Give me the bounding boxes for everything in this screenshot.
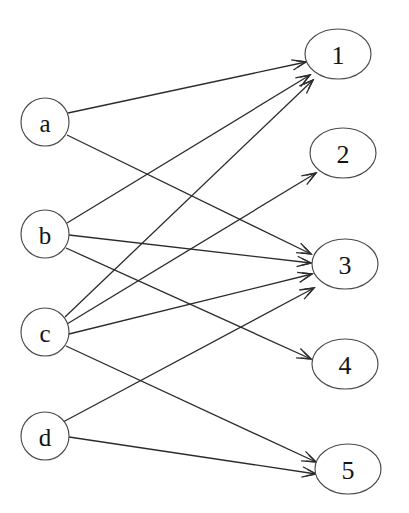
edge-d-to-5 [69, 437, 316, 477]
node-4[interactable]: 4 [312, 339, 378, 389]
node-4-label: 4 [339, 351, 352, 380]
node-d-label: d [39, 424, 52, 451]
bipartite-graph-svg: abcd12345 [0, 0, 409, 513]
node-a-label: a [39, 110, 50, 137]
node-3-label: 3 [339, 251, 352, 280]
node-c-label: c [39, 320, 50, 347]
node-b[interactable]: b [21, 210, 69, 258]
node-a[interactable]: a [21, 98, 69, 146]
graph-canvas: abcd12345 [0, 0, 409, 513]
node-2[interactable]: 2 [310, 128, 376, 178]
node-d[interactable]: d [21, 412, 69, 460]
node-1[interactable]: 1 [305, 29, 371, 79]
edge-a-to-1 [68, 60, 306, 113]
edge-c-to-5 [66, 346, 316, 462]
node-5-label: 5 [342, 456, 355, 485]
node-layer: abcd12345 [21, 29, 381, 494]
edge-b-to-4 [66, 248, 311, 359]
node-5[interactable]: 5 [315, 444, 381, 494]
edge-b-to-3 [69, 235, 311, 267]
node-2-label: 2 [337, 140, 350, 169]
edge-d-to-3 [63, 288, 314, 422]
node-1-label: 1 [332, 41, 345, 70]
node-c[interactable]: c [21, 308, 69, 356]
node-b-label: b [39, 222, 52, 249]
node-3[interactable]: 3 [312, 239, 378, 289]
edge-layer [63, 60, 316, 477]
edge-b-to-1 [67, 75, 310, 223]
edge-a-to-3 [67, 135, 311, 254]
edge-c-to-1 [65, 80, 313, 317]
edge-c-to-3 [69, 272, 312, 334]
